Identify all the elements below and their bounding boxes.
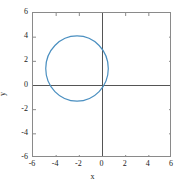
y-tick-label: -2 bbox=[0, 105, 28, 113]
x-tick-label: -2 bbox=[75, 160, 82, 168]
x-tick-label: 2 bbox=[123, 160, 127, 168]
x-tick-label: -6 bbox=[29, 160, 36, 168]
y-tick-label: 6 bbox=[0, 8, 28, 16]
x-tick-label: 6 bbox=[169, 160, 173, 168]
data-series-group bbox=[46, 36, 109, 101]
plot-area bbox=[32, 12, 171, 157]
x-axis-title: x bbox=[0, 173, 185, 181]
y-tick-label: -4 bbox=[0, 129, 28, 137]
circle-curve bbox=[46, 36, 109, 101]
x-tick-label: 4 bbox=[146, 160, 150, 168]
x-tick-label: -4 bbox=[52, 160, 59, 168]
x-tick-label: 0 bbox=[100, 160, 104, 168]
y-tick-label: -6 bbox=[0, 153, 28, 161]
figure-canvas: y 6 4 2 0 -2 -4 -6 -6 -4 -2 0 2 4 6 x bbox=[0, 0, 185, 188]
y-tick-label: 2 bbox=[0, 56, 28, 64]
y-tick-label: 0 bbox=[0, 81, 28, 89]
plot-svg bbox=[33, 13, 171, 157]
y-axis-title: y bbox=[0, 92, 7, 96]
axis-lines-group bbox=[33, 13, 171, 157]
y-tick-label: 4 bbox=[0, 32, 28, 40]
